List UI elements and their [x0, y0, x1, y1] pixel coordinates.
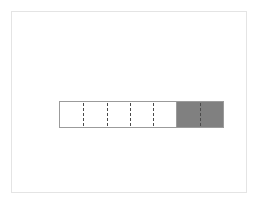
segment-divider-4	[153, 103, 154, 126]
figure-canvas	[0, 0, 259, 205]
segment-divider-6	[200, 103, 201, 126]
bar-unfilled-region	[60, 102, 176, 127]
segmented-bar[interactable]	[59, 101, 224, 128]
segment-divider-3	[130, 103, 131, 126]
segment-divider-2	[107, 103, 108, 126]
figure-frame	[11, 11, 247, 193]
segment-divider-1	[83, 103, 84, 126]
